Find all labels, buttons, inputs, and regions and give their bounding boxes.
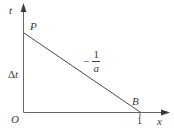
point-b-label: B [132,96,139,107]
t-axis-arrowhead [21,3,27,12]
coordinate-plot-figure: t P Δt O B 1 x − 1 a [0,0,174,134]
delta-t-label: Δt [8,69,18,80]
point-p-label: P [30,21,37,32]
delta-t-variable: t [15,68,18,80]
slope-numerator: 1 [92,49,100,61]
x-axis-arrowhead [161,110,170,116]
slope-fraction: 1 a [92,49,100,74]
slope-annotation: − 1 a [83,49,100,74]
t-axis-label: t [9,5,12,16]
x-axis-label: x [157,116,162,127]
segment-pb [24,33,140,112]
origin-label: O [11,114,19,125]
slope-denominator: a [92,62,100,74]
x-tick-label-1: 1 [137,116,142,126]
slope-minus-sign: − [83,56,89,67]
